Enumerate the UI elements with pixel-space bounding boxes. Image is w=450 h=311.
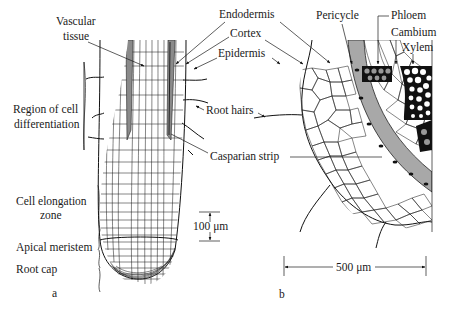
label-cell-elongation-1: Cell elongation bbox=[16, 195, 87, 208]
label-vascular-tissue-1: Vascular bbox=[56, 15, 96, 27]
root-hair-2 bbox=[300, 185, 330, 232]
label-endodermis: Endodermis bbox=[219, 8, 275, 20]
root-cell-grid bbox=[95, 40, 190, 290]
label-casparian-strip: Casparian strip bbox=[210, 150, 280, 163]
scale-bar-100um-label: 100 μm bbox=[193, 220, 228, 233]
label-region-cell-diff-2: differentiation bbox=[14, 118, 80, 130]
label-region-cell-diff-1: Region of cell bbox=[13, 103, 78, 116]
label-root-hairs: Root hairs bbox=[206, 104, 254, 116]
label-apical-meristem: Apical meristem bbox=[16, 241, 92, 254]
label-root-cap: Root cap bbox=[16, 263, 57, 276]
brace-root-cap bbox=[99, 268, 100, 292]
panel-label-b: b bbox=[279, 288, 285, 300]
label-phloem: Phloem bbox=[391, 9, 426, 21]
root-anatomy-figure: Vascular tissue Region of cell different… bbox=[0, 0, 450, 311]
scale-bar-500um: 500 μm bbox=[284, 256, 426, 276]
label-cell-elongation-2: zone bbox=[40, 209, 62, 221]
label-cambium: Cambium bbox=[391, 26, 436, 38]
scale-bar-100um: 100 μm bbox=[193, 212, 228, 241]
panel-b-root-cross-section: Endodermis Cortex Epidermis Pericycle Ph… bbox=[171, 8, 440, 300]
root-hairs-left bbox=[84, 62, 104, 150]
panel-label-a: a bbox=[52, 287, 57, 299]
label-pericycle: Pericycle bbox=[316, 9, 359, 22]
label-vascular-tissue-2: tissue bbox=[63, 30, 89, 42]
label-epidermis: Epidermis bbox=[218, 47, 266, 60]
label-cortex: Cortex bbox=[230, 27, 262, 39]
scale-bar-500um-label: 500 μm bbox=[336, 261, 371, 274]
phloem-cells bbox=[362, 66, 392, 82]
label-xylem: Xylem bbox=[402, 41, 433, 54]
